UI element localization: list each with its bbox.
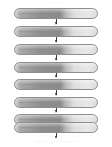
flow-node-label: ······ ··· [19,98,34,108]
arrow-head [55,110,57,113]
flow-node-label: ······ ··· [19,80,34,90]
flow-connector-arrow-icon [55,55,58,62]
flow-connector-arrow-icon [55,19,58,26]
flow-node-stack: ······ ········· ········· ········· ···… [0,8,112,134]
flow-node-3[interactable]: ······ ··· [14,44,98,55]
flow-node-label: ······ ··· [19,27,34,37]
flow-connector-arrow-icon [55,107,58,114]
arrow-head [55,40,57,43]
flow-node-label: ······ ··· [19,123,34,133]
flow-node-5[interactable]: ······ ··· [14,79,98,90]
flow-connector-arrow-icon [55,37,58,44]
flow-node-label: ······ ··· [19,45,34,55]
flow-node-row: ······ ··· [0,79,112,90]
flow-connector-arrow-icon [55,90,58,97]
arrow-head [55,75,57,78]
flowchart-diagram: ·· ·· ·· ·· ·· ·· ·· ······ ········· ··… [0,0,112,147]
flow-node-2[interactable]: ······ ··· [14,26,98,37]
figure-caption-top: ·· ·· ·· ·· ·· ·· ·· [0,0,112,7]
flow-node-8[interactable]: ······ ··· [14,122,98,133]
flow-node-label: ······ ··· [19,9,34,19]
flow-node-row: ······ ··· [0,122,112,133]
arrow-head [55,22,57,25]
flow-node-6[interactable]: ······ ··· [14,97,98,108]
flow-node-row: ······ ··· [0,26,112,37]
flow-connector-arrow-icon [55,72,58,79]
flow-node-row: ······ ··· [0,8,112,19]
arrow-head [55,93,57,96]
figure-caption-bottom: ···· ·· ·· ···· ··· ···· ·· · ·· [0,139,112,146]
flow-node-row: ······ ··· [0,97,112,108]
flow-node-4[interactable]: ······ ··· [14,62,98,73]
flow-node-1[interactable]: ······ ··· [14,8,98,19]
flow-node-row: ······ ··· [0,44,112,55]
flow-node-row: ······ ··· [0,62,112,73]
flow-node-label: ······ ··· [19,63,34,73]
arrow-head [55,58,57,61]
